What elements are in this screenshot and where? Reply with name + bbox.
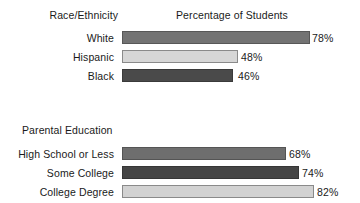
bar-fill-black (122, 69, 233, 82)
panel1-value-header: Percentage of Students (176, 9, 288, 21)
bar-row-some-college: Some College 74% (0, 166, 360, 180)
bar-label-college-degree: College Degree (0, 185, 114, 199)
bar-label-high-school-or-less: High School or Less (0, 147, 114, 161)
bar-value-some-college: 74% (302, 166, 323, 180)
bar-track-some-college (122, 166, 299, 179)
bar-fill-some-college (122, 166, 299, 179)
bar-value-black: 46% (238, 69, 259, 83)
bar-value-white: 78% (312, 31, 333, 45)
bar-row-high-school-or-less: High School or Less 68% (0, 147, 360, 161)
bar-track-college-degree (122, 185, 314, 198)
bar-fill-college-degree (122, 185, 314, 198)
bar-label-white: White (0, 31, 114, 45)
panel1-header-row: Race/Ethnicity Percentage of Students (0, 9, 360, 25)
bar-track-black (122, 69, 233, 82)
bar-fill-hispanic (122, 50, 238, 63)
bar-label-black: Black (0, 69, 114, 83)
bar-track-hispanic (122, 50, 238, 63)
bar-row-college-degree: College Degree 82% (0, 185, 360, 199)
bar-track-white (122, 31, 310, 44)
bar-value-college-degree: 82% (317, 185, 338, 199)
bar-track-high-school-or-less (122, 147, 286, 160)
bar-fill-white (122, 31, 310, 44)
bar-label-hispanic: Hispanic (0, 50, 114, 64)
bar-chart-figure: Race/Ethnicity Percentage of Students Wh… (0, 0, 360, 203)
bar-row-white: White 78% (0, 31, 360, 45)
bar-value-hispanic: 48% (241, 50, 262, 64)
bar-value-high-school-or-less: 68% (289, 147, 310, 161)
panel2-group-header: Parental Education (22, 124, 113, 136)
bar-label-some-college: Some College (0, 166, 114, 180)
bar-fill-high-school-or-less (122, 147, 286, 160)
bar-row-hispanic: Hispanic 48% (0, 50, 360, 64)
panel1-category-header: Race/Ethnicity (0, 9, 118, 21)
bar-row-black: Black 46% (0, 69, 360, 83)
